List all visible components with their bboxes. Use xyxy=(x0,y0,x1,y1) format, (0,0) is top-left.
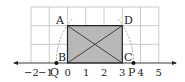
label-d: D xyxy=(124,14,133,27)
tick-label-5: 5 xyxy=(156,67,162,78)
label-c: C xyxy=(124,51,132,64)
tick-label-0: 0 xyxy=(65,67,71,78)
diagram-canvas: A B C D −2 −1 Q 0 1 2 3 P 4 5 xyxy=(0,0,185,82)
arrow-right-icon xyxy=(172,61,177,65)
tick-label-1: 1 xyxy=(83,67,89,78)
arrow-left-icon xyxy=(13,61,18,65)
tick-label--2: −2 xyxy=(24,67,39,78)
tick-label-4: 4 xyxy=(138,67,144,78)
label-b: B xyxy=(58,51,66,64)
label-q: Q xyxy=(50,66,59,79)
label-a: A xyxy=(55,14,65,27)
tick-label-2: 2 xyxy=(101,67,107,78)
label-p: P xyxy=(128,66,136,79)
tick-label-3: 3 xyxy=(119,67,125,78)
